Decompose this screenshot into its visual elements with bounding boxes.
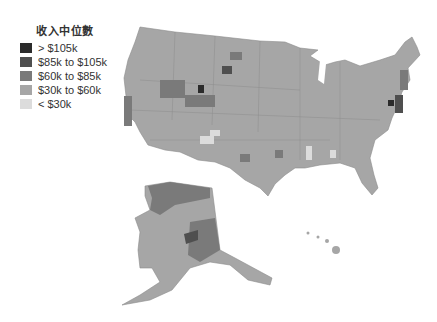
legend-item: $60k to $85k bbox=[20, 69, 107, 83]
legend-swatch bbox=[20, 71, 32, 81]
legend-item: > $105k bbox=[20, 41, 107, 55]
legend-swatch bbox=[20, 57, 32, 67]
legend-item: $30k to $60k bbox=[20, 83, 107, 97]
legend-label: $30k to $60k bbox=[38, 84, 101, 96]
legend-label: $60k to $85k bbox=[38, 70, 101, 82]
legend-title: 收入中位數 bbox=[36, 22, 107, 38]
legend: 收入中位數 > $105k $85k to $105k $60k to $85k… bbox=[20, 22, 107, 111]
legend-label: $85k to $105k bbox=[38, 56, 107, 68]
legend-swatch bbox=[20, 99, 32, 109]
legend-label: > $105k bbox=[38, 42, 77, 54]
legend-label: < $30k bbox=[38, 98, 71, 110]
legend-item: $85k to $105k bbox=[20, 55, 107, 69]
legend-item: < $30k bbox=[20, 97, 107, 111]
legend-swatch bbox=[20, 43, 32, 53]
hawaii bbox=[307, 232, 341, 255]
legend-swatch bbox=[20, 85, 32, 95]
